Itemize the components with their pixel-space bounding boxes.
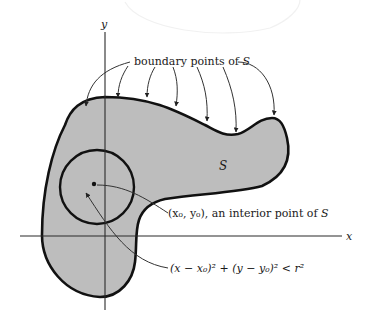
y-axis-label: y [100, 18, 108, 31]
boundary-arrow [238, 62, 274, 115]
figure-canvas: x y S boundary points of S (x₀, y₀), an … [0, 0, 368, 326]
interior-point-set: S [321, 207, 329, 220]
x-axis-label: x [346, 230, 353, 243]
disk-inequality-label: (x − x₀)² + (y − y₀)² < r² [170, 262, 304, 275]
boundary-arrow [197, 67, 207, 121]
boundary-arrow [147, 67, 155, 97]
interior-point-label: (x₀, y₀), an interior point of S [168, 207, 329, 220]
bleed-through-artifact [125, 0, 300, 33]
interior-point-marker [92, 182, 96, 186]
boundary-arrow [223, 67, 236, 132]
boundary-arrow [118, 66, 128, 97]
region-label: S [219, 159, 227, 173]
boundary-arrow [173, 67, 177, 106]
boundary-points-label: boundary points of S [134, 55, 250, 68]
boundary-points-set: S [242, 55, 250, 68]
boundary-points-text: boundary points of [134, 55, 242, 68]
interior-point-text: (x₀, y₀), an interior point of [168, 207, 321, 220]
